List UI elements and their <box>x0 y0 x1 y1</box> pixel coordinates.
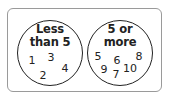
number: 9 <box>101 64 108 75</box>
label-line-2: than 5 <box>20 36 80 49</box>
label-line-2: more <box>90 36 150 49</box>
number: 8 <box>136 51 143 62</box>
number: 10 <box>123 63 137 74</box>
circle-less-than-5-label: Less than 5 <box>20 23 80 49</box>
circle-5-or-more-label: 5 or more <box>90 23 150 49</box>
number: 4 <box>62 63 69 74</box>
number: 3 <box>48 52 55 63</box>
number: 1 <box>29 55 36 66</box>
number: 7 <box>113 69 120 80</box>
number: 5 <box>95 51 102 62</box>
number: 2 <box>40 70 47 81</box>
number: 6 <box>114 55 121 66</box>
